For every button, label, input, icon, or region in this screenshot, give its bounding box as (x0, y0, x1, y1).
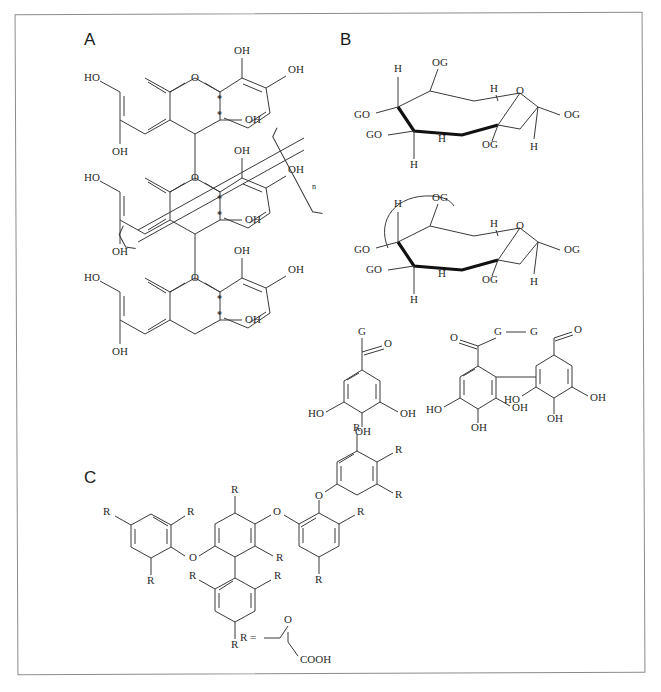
label-oh-b2: OH (245, 213, 261, 225)
panel-b-sugar-1: O OG H GO GO H H H OG OG H (370, 55, 600, 175)
label-h-sugar2-c: H (438, 267, 446, 279)
label-o-ether-left: O (189, 551, 197, 563)
stereocenter-marker-c2: * (217, 309, 222, 320)
label-oh-digalloyl-left-bottom: OH (471, 421, 487, 433)
label-ho-c1: HO (84, 271, 100, 283)
label-oh-a1: OH (112, 145, 128, 157)
label-h-sugar1-b: H (410, 158, 418, 170)
stereocenter-marker-c1: * (217, 293, 222, 304)
label-o-ring-c1: O (191, 271, 199, 283)
label-r-c4: R (103, 505, 111, 517)
label-o-ring-b1: O (191, 171, 199, 183)
label-og-sugar2-c6: OG (432, 191, 448, 203)
stereocenter-marker-b2: * (217, 209, 222, 220)
label-o-ether-top: O (315, 489, 323, 501)
label-oh-a2: OH (245, 113, 261, 125)
label-o-carbonyl-digalloyl-right: O (574, 323, 582, 335)
label-h-sugar2-a: H (394, 197, 402, 209)
label-r-c2: R (276, 551, 284, 563)
ring-bottom (215, 578, 255, 622)
chair-back (398, 91, 520, 107)
label-ho-digalloyl-right: HO (504, 393, 520, 405)
label-h-sugar2-e: H (530, 275, 538, 287)
label-oh-a4: OH (288, 63, 304, 75)
label-r-c7: R (274, 569, 282, 581)
stereocenter-marker-a2: * (217, 109, 222, 120)
label-oh-b4: OH (288, 163, 304, 175)
label-o-carbonyl-galloyl: O (384, 337, 392, 349)
label-go-sugar1-c4: GO (354, 108, 370, 120)
label-h-sugar1-e: H (530, 140, 538, 152)
label-h-sugar2-d: H (490, 217, 498, 229)
label-og-sugar2-c2: OG (482, 273, 498, 285)
label-og-sugar2-c1: OG (564, 243, 580, 255)
label-go-sugar2-c3: GO (366, 263, 382, 275)
ring-center (215, 513, 255, 557)
label-oh-c2: OH (245, 313, 261, 325)
label-g-digalloyl-left: G (494, 325, 502, 337)
label-og-sugar1-c6: OG (432, 56, 448, 68)
label-h-sugar1-a: H (394, 62, 402, 74)
panel-b-galloyl-definition: G O HO OH OH (322, 324, 452, 434)
panel-c-r-definition: R = O COOH (240, 622, 365, 677)
label-r-equals: R = (240, 631, 256, 643)
label-o-r-definition: O (284, 613, 292, 625)
label-oh-digalloyl-right-outer: OH (590, 391, 606, 403)
label-oh-b3: OH (234, 144, 250, 156)
label-o-ring-sugar2: O (516, 219, 524, 231)
label-r-c5: R (147, 574, 155, 586)
label-cooh: COOH (300, 653, 331, 665)
label-oh-a3: OH (234, 44, 250, 56)
panel-b-digalloyl-definition: G G O HO OH OH O HO OH (448, 324, 623, 434)
label-ho-b1: HO (84, 171, 100, 183)
label-r-c8: R (231, 638, 239, 650)
label-go-sugar2-c4: GO (354, 243, 370, 255)
label-g-galloyl: G (358, 325, 366, 337)
label-og-sugar1-c2: OG (482, 138, 498, 150)
label-h-sugar1-c: H (438, 132, 446, 144)
label-r-c13: R (395, 488, 403, 500)
panel-label-b: B (340, 30, 352, 50)
label-oh-galloyl-right: OH (400, 407, 416, 419)
label-go-sugar1-c3: GO (366, 128, 382, 140)
label-r-c9: R (357, 505, 365, 517)
label-oh-b1: OH (112, 245, 128, 257)
label-og-sugar1-c1: OG (564, 108, 580, 120)
stereocenter-marker-b1: * (217, 193, 222, 204)
label-oh-c3: OH (234, 244, 250, 256)
figure-canvas: A HO OH O * * OH OH OH (0, 0, 661, 692)
label-oh-digalloyl-right-bottom: OH (547, 412, 563, 424)
stereocenter-marker-a1: * (217, 93, 222, 104)
label-r-c3: R (187, 505, 195, 517)
label-h-sugar1-d: H (490, 82, 498, 94)
panel-a-structure: HO OH O * * OH OH OH n (60, 40, 350, 330)
label-o-ring-sugar1: O (516, 84, 524, 96)
label-oh-c4: OH (288, 263, 304, 275)
label-o-ether-right: O (273, 505, 281, 517)
label-ho-galloyl: HO (308, 407, 324, 419)
label-o-ring-a1: O (191, 71, 199, 83)
ring-left (131, 514, 171, 558)
label-ho-digalloyl-left: HO (426, 403, 442, 415)
label-r-c10: R (315, 573, 323, 585)
label-r-c6: R (189, 569, 197, 581)
label-r-c11: R (353, 421, 361, 433)
label-g-digalloyl-right: G (530, 325, 538, 337)
ring-right-middle (299, 513, 339, 557)
label-h-sugar2-b: H (410, 293, 418, 305)
label-o-carbonyl-digalloyl-left: O (450, 331, 458, 343)
label-ho-a1: HO (84, 71, 100, 83)
panel-b-sugar-2: O OG H GO GO H H H OG OG H (370, 190, 600, 320)
label-oh-c1: OH (112, 345, 128, 357)
label-r-c1: R (231, 483, 239, 495)
repeat-subscript: n (312, 182, 316, 191)
label-r-c12: R (395, 443, 403, 455)
